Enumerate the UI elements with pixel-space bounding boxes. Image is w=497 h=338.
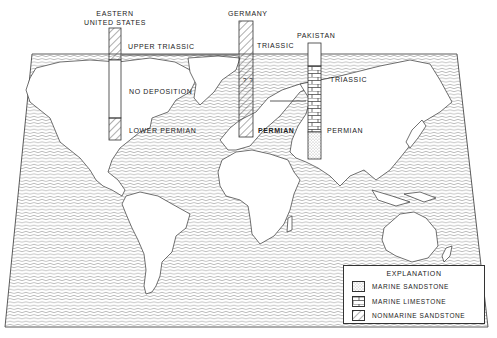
column-pakistan — [308, 43, 321, 159]
label-pakistan-triassic: TRIASSIC — [330, 76, 367, 83]
label-germany-triassic: TRIASSIC — [257, 42, 294, 49]
madagascar — [287, 216, 292, 232]
label-lower-permian: LOWER PERMIAN — [129, 127, 196, 134]
label-germany-permian: PERMIAN — [258, 127, 294, 134]
legend-item-nonmarine-sandstone: NONMARINE SANDSTONE — [352, 309, 465, 321]
marine-sandstone-swatch — [352, 281, 365, 292]
column-title-eastern-us-line2: UNITED STATES — [72, 19, 158, 26]
legend: EXPLANATION MARINE SANDSTONE MARINE LIME… — [343, 265, 485, 324]
label-upper-triassic: UPPER TRIASSIC — [128, 43, 195, 50]
legend-label: MARINE SANDSTONE — [372, 283, 449, 290]
legend-label: NONMARINE SANDSTONE — [372, 312, 465, 319]
column-title-germany: GERMANY — [228, 10, 268, 17]
label-no-deposition: NO DEPOSITION — [129, 88, 192, 95]
column-title-pakistan: PAKISTAN — [297, 32, 335, 39]
column-title-eastern-us-line1: EASTERN — [78, 10, 152, 17]
label-pakistan-permian: PERMIAN — [327, 127, 363, 134]
legend-item-marine-sandstone: MARINE SANDSTONE — [352, 280, 449, 292]
legend-item-marine-limestone: MARINE LIMESTONE — [352, 295, 446, 307]
marine-limestone-swatch — [352, 296, 365, 307]
nonmarine-sandstone-swatch — [352, 310, 365, 321]
germany-question-marks: ? ? — [243, 77, 253, 83]
legend-label: MARINE LIMESTONE — [372, 298, 446, 305]
legend-title: EXPLANATION — [344, 270, 484, 277]
column-eastern-us — [109, 28, 121, 140]
